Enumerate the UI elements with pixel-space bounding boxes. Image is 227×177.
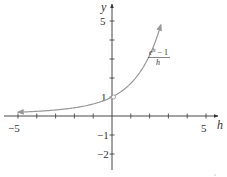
- tick-label-x-neg5: −5: [8, 122, 20, 134]
- x-axis-label: h: [217, 118, 223, 132]
- stray-mark: [214, 174, 215, 175]
- y-axis: [110, 4, 115, 170]
- tick-label-y-neg1: −1: [97, 129, 109, 141]
- tick-label-y-neg2: −2: [97, 148, 109, 160]
- tick-label-x-5: 5: [201, 122, 207, 134]
- function-label: eh − 1 h: [148, 47, 170, 67]
- function-plot: y h −5 5 5 1 −1 −2 eh − 1 h: [0, 0, 227, 177]
- fn-num-rest: − 1: [156, 48, 169, 57]
- open-circle-hole: [112, 95, 116, 99]
- function-curve: [18, 25, 161, 112]
- svg-text:eh − 1: eh − 1: [149, 47, 168, 57]
- x-axis: [4, 114, 218, 119]
- tick-label-y-5: 5: [100, 15, 106, 27]
- fn-den: h: [156, 58, 160, 67]
- y-axis-label: y: [100, 0, 107, 14]
